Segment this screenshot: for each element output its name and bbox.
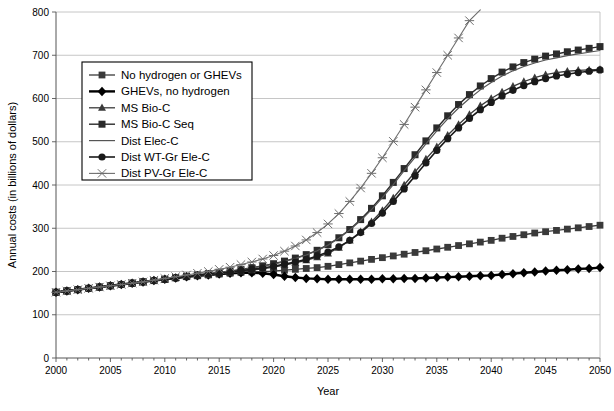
data-point-marker xyxy=(443,272,452,282)
x-tick-label: 2045 xyxy=(534,365,557,376)
data-point-marker xyxy=(510,233,517,240)
data-point-marker xyxy=(520,59,527,66)
data-point-marker xyxy=(367,169,376,177)
data-point-marker xyxy=(520,82,527,89)
data-point-marker xyxy=(586,45,593,52)
data-point-marker xyxy=(563,265,572,275)
data-point-marker xyxy=(552,265,561,275)
data-point-marker xyxy=(292,266,299,273)
data-point-marker xyxy=(477,106,484,113)
data-point-marker xyxy=(498,92,505,99)
data-point-marker xyxy=(303,265,310,272)
data-point-marker xyxy=(575,69,582,76)
data-point-marker xyxy=(345,197,354,205)
data-point-marker xyxy=(303,256,310,263)
data-point-marker xyxy=(586,68,593,75)
data-point-marker xyxy=(378,154,387,162)
data-point-marker xyxy=(258,255,267,263)
data-point-marker xyxy=(411,172,418,179)
x-tick-label: 2040 xyxy=(480,365,503,376)
data-point-marker xyxy=(596,66,603,73)
data-point-marker xyxy=(531,230,538,237)
y-axis-title: Annual costs (in billions of dollars) xyxy=(6,102,18,268)
data-point-marker xyxy=(575,224,582,231)
data-point-marker xyxy=(379,210,386,217)
data-point-marker xyxy=(368,256,375,263)
line-chart: 2000200520102015202020252030203520402045… xyxy=(0,0,614,411)
y-tick-label: 700 xyxy=(32,50,49,61)
legend-marker xyxy=(99,72,106,79)
data-point-marker xyxy=(324,275,333,285)
data-point-marker xyxy=(597,43,604,50)
legend-label: MS Bio-C Seq xyxy=(121,118,194,130)
data-point-marker xyxy=(597,222,604,229)
data-point-marker xyxy=(237,267,244,274)
y-tick-label: 500 xyxy=(32,136,49,147)
legend-label: MS Bio-C xyxy=(121,102,170,114)
data-point-marker xyxy=(564,71,571,78)
data-point-marker xyxy=(574,264,583,274)
data-point-marker xyxy=(541,266,550,276)
data-point-marker xyxy=(248,266,255,273)
x-tick-label: 2020 xyxy=(262,365,285,376)
data-point-marker xyxy=(368,220,375,227)
data-point-marker xyxy=(324,248,331,255)
data-point-marker xyxy=(466,240,473,247)
x-tick-label: 2005 xyxy=(99,365,122,376)
legend-label: GHEVs, no hydrogen xyxy=(121,85,230,97)
data-point-marker xyxy=(432,273,441,283)
x-tick-label: 2050 xyxy=(589,365,612,376)
data-point-marker xyxy=(270,263,277,270)
data-point-marker xyxy=(465,16,474,24)
data-point-marker xyxy=(390,198,397,205)
data-point-marker xyxy=(422,273,431,283)
data-point-marker xyxy=(488,99,495,106)
x-axis-title: Year xyxy=(317,385,340,397)
data-point-marker xyxy=(575,47,582,54)
data-point-marker xyxy=(553,227,560,234)
data-point-marker xyxy=(335,275,344,285)
data-point-marker xyxy=(389,137,398,145)
legend-label: Dist WT-Gr Ele-C xyxy=(121,151,210,163)
data-point-marker xyxy=(345,275,354,285)
y-tick-label: 400 xyxy=(32,180,49,191)
x-tick-label: 2010 xyxy=(154,365,177,376)
data-point-marker xyxy=(422,159,429,166)
data-point-marker xyxy=(335,243,342,250)
data-point-marker xyxy=(520,231,527,238)
data-point-marker xyxy=(530,267,539,277)
data-point-marker xyxy=(281,261,288,268)
x-tick-label: 2035 xyxy=(426,365,449,376)
data-point-marker xyxy=(487,271,496,281)
data-point-marker xyxy=(357,229,364,236)
data-point-marker xyxy=(401,185,408,192)
data-point-marker xyxy=(553,50,560,57)
data-point-marker xyxy=(313,274,322,284)
y-tick-label: 0 xyxy=(43,353,49,364)
data-point-marker xyxy=(455,124,462,131)
data-point-marker xyxy=(443,51,452,59)
data-point-marker xyxy=(509,87,516,94)
data-point-marker xyxy=(488,237,495,244)
data-point-marker xyxy=(564,48,571,55)
y-tick-group: 0100200300400500600700800 xyxy=(32,7,56,364)
data-point-marker xyxy=(280,247,289,255)
data-point-marker xyxy=(542,75,549,82)
y-tick-label: 100 xyxy=(32,309,49,320)
data-point-marker xyxy=(302,236,311,244)
y-tick-label: 600 xyxy=(32,93,49,104)
data-point-marker xyxy=(454,34,463,42)
x-tick-label: 2025 xyxy=(317,365,340,376)
data-point-marker xyxy=(421,86,430,94)
data-point-marker xyxy=(466,115,473,122)
data-point-marker xyxy=(367,275,376,285)
data-point-marker xyxy=(346,237,353,244)
data-point-marker xyxy=(390,253,397,260)
data-point-marker xyxy=(499,235,506,242)
data-point-marker xyxy=(400,274,409,284)
data-point-marker xyxy=(356,275,365,285)
data-point-marker xyxy=(368,205,375,212)
legend-label: No hydrogen or GHEVs xyxy=(121,69,242,81)
data-point-marker xyxy=(378,274,387,284)
data-point-marker xyxy=(334,209,343,217)
